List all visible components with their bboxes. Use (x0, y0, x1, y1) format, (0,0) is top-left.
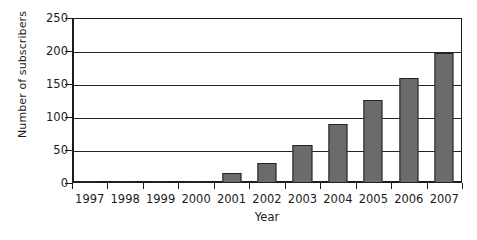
x-axis-tick-mark (391, 183, 392, 189)
bar-slot (107, 18, 142, 183)
bar[interactable] (364, 100, 383, 183)
bar-slot (72, 18, 107, 183)
bar-slot (285, 18, 320, 183)
bar-slot (391, 18, 426, 183)
bars-layer (72, 18, 462, 183)
x-axis-tick-mark (143, 183, 144, 189)
x-axis-tick-labels: 1997199819992000200120022003200420052006… (72, 192, 462, 208)
y-axis-tick-label: 200 (36, 46, 68, 57)
bar-chart: Number of subscribers 050100150200250 19… (0, 0, 477, 240)
y-axis-tick-label: 50 (36, 145, 68, 156)
x-axis-tick-mark (320, 183, 321, 189)
y-axis-tick-label: 100 (36, 112, 68, 123)
y-axis-title: Number of subscribers (16, 10, 29, 140)
y-axis-tick-label: 250 (36, 13, 68, 24)
y-axis-tick-label: 0 (36, 178, 68, 189)
bar[interactable] (222, 173, 241, 183)
bar-slot (178, 18, 213, 183)
x-axis-tick-mark (214, 183, 215, 189)
x-axis-tick-mark (356, 183, 357, 189)
bar[interactable] (328, 124, 347, 183)
bar-slot (143, 18, 178, 183)
x-axis-title: Year (72, 210, 462, 224)
bar[interactable] (435, 53, 454, 183)
x-axis-tick-mark (427, 183, 428, 189)
y-axis-tick-label: 150 (36, 79, 68, 90)
x-axis-tick-mark (178, 183, 179, 189)
bar[interactable] (399, 78, 418, 183)
bar-slot (249, 18, 284, 183)
x-axis-tick-mark (249, 183, 250, 189)
x-axis-tick-mark (462, 183, 463, 189)
bar-slot (356, 18, 391, 183)
x-axis-tick-mark (72, 183, 73, 189)
x-axis-tick-marks (72, 183, 462, 190)
x-axis-tick-label: 2007 (422, 192, 466, 206)
bar-slot (214, 18, 249, 183)
x-axis-tick-mark (107, 183, 108, 189)
y-axis-tick-labels: 050100150200250 (36, 18, 68, 183)
bar-slot (427, 18, 462, 183)
x-axis-tick-mark (285, 183, 286, 189)
bar[interactable] (293, 145, 312, 183)
bar[interactable] (257, 163, 276, 183)
bar-slot (320, 18, 355, 183)
